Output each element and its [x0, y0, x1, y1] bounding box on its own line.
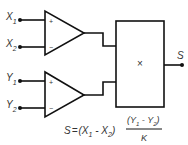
label-y1: Y1 [6, 72, 17, 86]
label-y2: Y2 [6, 99, 17, 113]
amp-bottom-minus: − [49, 105, 53, 112]
formula-numerator: (Y1 - Y2) [127, 115, 160, 127]
formula-lhs: S=(X1 - X2) [64, 125, 115, 138]
terminal-x2 [18, 45, 22, 49]
output-label: S [177, 50, 184, 61]
formula-denominator: K [141, 133, 148, 143]
amp-bottom-plus: + [49, 79, 53, 86]
label-x2: X2 [5, 38, 17, 52]
label-x1: X1 [5, 11, 17, 25]
terminal-x1 [18, 18, 22, 22]
terminal-y1 [18, 79, 22, 83]
wire-amp-bottom-out [84, 82, 116, 95]
multiplier-label: × [137, 58, 143, 69]
circuit-diagram: X1 X2 Y1 Y2 + − + − × S S=(X1 - X2) (Y1 … [0, 0, 188, 145]
wire-amp-top-out [84, 33, 116, 46]
amp-top-minus: − [49, 44, 53, 51]
amp-top-plus: + [49, 18, 53, 25]
terminal-y2 [18, 106, 22, 110]
terminal-s [180, 63, 184, 67]
